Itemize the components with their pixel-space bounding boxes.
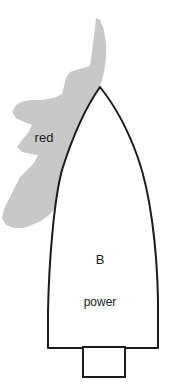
diagram-canvas: red B power bbox=[0, 0, 170, 390]
sector-label-red: red bbox=[35, 130, 54, 145]
propulsion-label-power: power bbox=[84, 295, 117, 309]
outboard-motor-box bbox=[83, 347, 125, 377]
vessel-label-b: B bbox=[96, 252, 105, 267]
boat-diagram-figure: red B power bbox=[0, 0, 170, 390]
